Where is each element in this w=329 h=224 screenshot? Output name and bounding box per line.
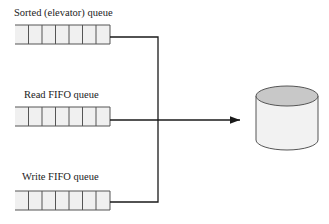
connector-lines <box>110 37 158 202</box>
diagram-canvas <box>0 0 329 224</box>
read-fifo-queue <box>15 107 110 126</box>
sorted-queue <box>15 25 110 44</box>
disk-icon <box>256 86 318 150</box>
write-fifo-queue <box>15 191 110 210</box>
